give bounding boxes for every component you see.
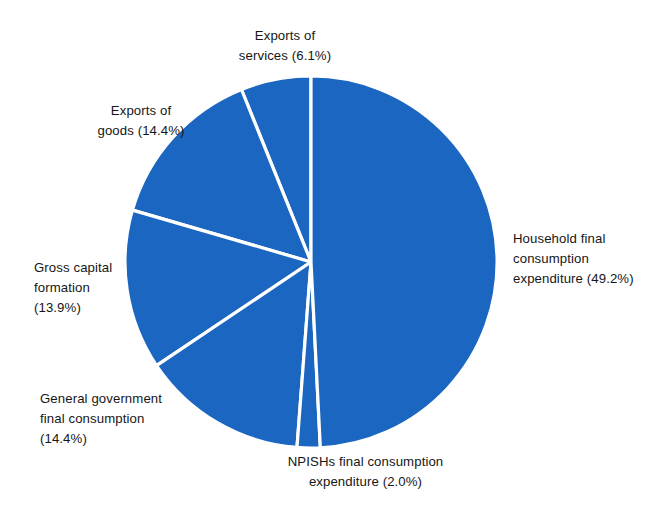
pie-slice-household-final-consumption-expenditure[interactable] — [311, 76, 497, 448]
slice-label-exports-of-goods: Exports of goods (14.4%) — [66, 101, 216, 141]
slice-label-exports-of-services: Exports of services (6.1%) — [205, 26, 365, 66]
slice-label-gross-capital-formation: Gross capital formation (13.9%) — [34, 258, 194, 318]
pie-chart-figure: Exports of services (6.1%) Exports of go… — [0, 0, 662, 516]
slice-label-general-government-final-consumption: General government final consumption (14… — [40, 389, 230, 449]
slice-label-household-final-consumption-expenditure: Household final consumption expenditure … — [513, 229, 661, 289]
slice-label-npishs-final-consumption-expenditure: NPISHs final consumption expenditure (2.… — [258, 452, 473, 492]
